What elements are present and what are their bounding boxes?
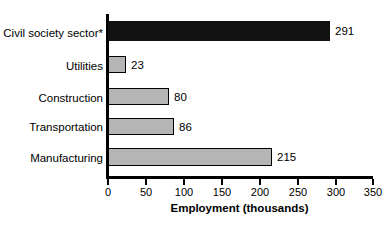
category-label-transportation: Transportation <box>0 120 103 134</box>
x-axis-tick <box>145 179 147 185</box>
x-axis-title: Employment (thousands) <box>106 201 373 215</box>
x-axis-tick-label: 200 <box>240 186 280 199</box>
bar-value-utilities: 23 <box>131 58 144 72</box>
bar-value-transportation: 86 <box>179 120 192 134</box>
bar-value-construction: 80 <box>174 90 187 104</box>
x-axis-tick-label: 0 <box>88 186 128 199</box>
bar-chart: 0 50 100 150 200 250 300 350 Civil socie… <box>0 0 385 225</box>
bar-manufacturing <box>108 148 272 166</box>
x-axis-tick <box>221 179 223 185</box>
x-axis-tick <box>107 179 109 185</box>
x-axis-tick-label: 250 <box>278 186 318 199</box>
bar-transportation <box>108 118 174 135</box>
x-axis-tick-label: 50 <box>126 186 166 199</box>
x-axis-tick <box>183 179 185 185</box>
x-axis-tick-label: 300 <box>316 186 356 199</box>
x-axis-tick-label: 350 <box>353 186 385 199</box>
bar-value-manufacturing: 215 <box>277 150 296 164</box>
x-axis-tick <box>297 179 299 185</box>
x-axis-tick <box>259 179 261 185</box>
category-label-manufacturing: Manufacturing <box>0 151 103 165</box>
bar-utilities <box>108 56 126 73</box>
x-axis-tick-label: 100 <box>164 186 204 199</box>
category-label-civil-society-sector: Civil society sector* <box>0 26 103 40</box>
category-label-utilities: Utilities <box>0 59 103 73</box>
bar-value-civil-society-sector: 291 <box>335 24 354 38</box>
x-axis-tick <box>335 179 337 185</box>
x-axis-tick-label: 150 <box>202 186 242 199</box>
category-label-construction: Construction <box>0 91 103 105</box>
x-axis-tick <box>372 179 374 185</box>
bar-civil-society-sector <box>108 21 330 41</box>
bar-construction <box>108 88 169 105</box>
